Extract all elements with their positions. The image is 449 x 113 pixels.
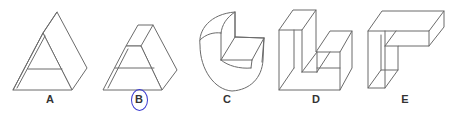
shape-e[interactable] xyxy=(368,11,444,88)
shape-a[interactable] xyxy=(13,12,87,90)
shape-b[interactable] xyxy=(103,25,177,90)
shape-d[interactable] xyxy=(279,10,352,90)
option-label-d: D xyxy=(312,93,320,105)
option-label-e: E xyxy=(401,93,408,105)
option-label-a: A xyxy=(46,93,54,105)
shape-c[interactable] xyxy=(200,12,264,91)
option-label-c: C xyxy=(223,93,231,105)
selected-answer-circle xyxy=(131,89,148,111)
